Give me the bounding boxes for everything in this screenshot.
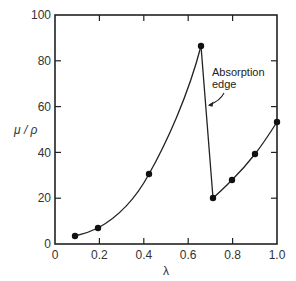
y-tick-label: 40 bbox=[38, 146, 52, 160]
x-tick-label: 0.6 bbox=[180, 248, 197, 262]
y-tick-label: 80 bbox=[38, 54, 52, 68]
x-tick-labels: 0 0.2 0.4 0.6 0.8 1.0 bbox=[52, 248, 286, 262]
y-tick-label: 60 bbox=[38, 100, 52, 114]
annotation-text-line2: edge bbox=[212, 78, 236, 90]
y-tick-label: 20 bbox=[38, 191, 52, 205]
x-tick-label: 0.4 bbox=[135, 248, 152, 262]
absorption-edge-annotation: Absorption edge bbox=[208, 66, 265, 107]
data-point bbox=[210, 195, 216, 201]
data-point bbox=[95, 225, 101, 231]
data-point bbox=[146, 171, 152, 177]
data-point bbox=[198, 43, 204, 49]
data-point bbox=[72, 233, 78, 239]
y-axis-ticks bbox=[55, 61, 277, 198]
data-point bbox=[252, 151, 258, 157]
x-axis-ticks bbox=[99, 15, 232, 244]
data-point bbox=[229, 177, 235, 183]
y-tick-label: 0 bbox=[44, 237, 51, 251]
x-axis-label: λ bbox=[163, 264, 169, 278]
x-tick-label: 0 bbox=[52, 248, 59, 262]
curve-below-edge bbox=[75, 46, 201, 236]
arrowhead-icon bbox=[208, 102, 214, 107]
x-tick-label: 0.2 bbox=[91, 248, 108, 262]
y-axis-label: μ / ρ bbox=[13, 123, 38, 137]
plot-frame bbox=[55, 15, 277, 244]
y-tick-label: 100 bbox=[31, 8, 51, 22]
annotation-text-line1: Absorption bbox=[212, 66, 265, 78]
x-tick-label: 1.0 bbox=[269, 248, 286, 262]
data-point bbox=[274, 119, 280, 125]
chart-figure: 0 0.2 0.4 0.6 0.8 1.0 0 20 40 60 80 100 … bbox=[0, 0, 296, 281]
curve-above-edge bbox=[213, 122, 277, 198]
x-tick-label: 0.8 bbox=[224, 248, 241, 262]
